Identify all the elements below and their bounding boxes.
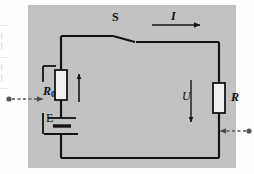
current-label: I	[171, 10, 176, 22]
resistor-r0-symbol	[55, 70, 67, 100]
left-pointer-annotation	[6, 96, 43, 101]
internal-resistor-label: R0	[43, 85, 55, 99]
internal-resistor-label-main: R	[43, 84, 51, 98]
figure-root: — ∣ ∣ — ∣ ∣ —	[0, 0, 254, 174]
resistor-r-symbol	[213, 83, 225, 113]
left-pointer-dot	[6, 96, 11, 101]
internal-resistor-label-sub: 0	[51, 90, 55, 99]
right-pointer-dot	[246, 128, 251, 133]
voltage-label: U	[182, 90, 191, 102]
circuit-wire-group	[61, 36, 219, 158]
circuit-svg	[0, 0, 254, 174]
right-pointer-annotation	[220, 128, 252, 133]
switch-blade[interactable]	[113, 36, 135, 42]
load-resistor-label: R	[231, 91, 239, 103]
switch-label: S	[112, 11, 119, 23]
emf-label: E	[46, 112, 53, 124]
